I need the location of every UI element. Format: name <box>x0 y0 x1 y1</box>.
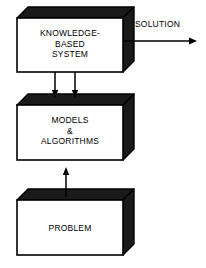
box-problem[interactable] <box>17 189 134 255</box>
box-front-face <box>17 18 123 72</box>
box-side-face <box>123 7 134 72</box>
connector-label-solution: SOLUTION <box>135 19 180 29</box>
box-front-face <box>17 200 123 255</box>
box-front-face <box>17 105 123 160</box>
box-models-algorithms[interactable] <box>17 94 134 160</box>
box-top-face <box>17 189 134 200</box>
box-knowledge-based-system[interactable] <box>17 7 134 72</box>
diagram-canvas: KNOWLEDGE- BASED SYSTEM MODELS & ALGORIT… <box>0 0 206 268</box>
box-side-face <box>123 94 134 160</box>
box-top-face <box>17 7 134 18</box>
box-side-face <box>123 189 134 255</box>
diagram-graphics <box>0 0 206 268</box>
